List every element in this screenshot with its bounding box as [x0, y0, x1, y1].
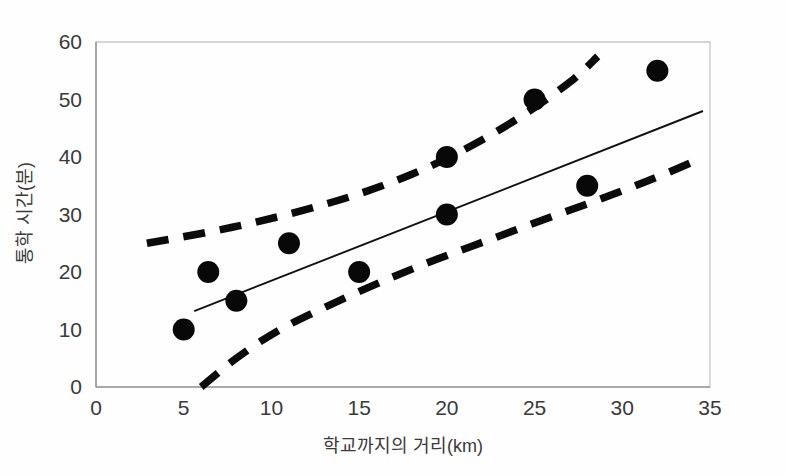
data-point: [576, 175, 598, 197]
data-point: [436, 146, 458, 168]
y-tick-label: 0: [70, 375, 82, 398]
x-tick-label: 5: [178, 396, 190, 419]
data-point: [348, 261, 370, 283]
x-tick-label: 20: [435, 396, 458, 419]
data-point: [278, 232, 300, 254]
x-tick-label: 0: [90, 396, 102, 419]
lower-confidence-band: [201, 160, 697, 387]
y-tick-label: 40: [59, 145, 82, 168]
y-axis-title: 통학 시간(분): [15, 162, 35, 264]
upper-confidence-band: [147, 56, 598, 243]
x-tick-label: 35: [698, 396, 721, 419]
scatter-plot-canvas: 05101520253035 0102030405060 학교까지의 거리(km…: [0, 0, 786, 475]
x-tick-label: 10: [260, 396, 283, 419]
x-axis-title: 학교까지의 거리(km): [323, 436, 483, 456]
data-point: [436, 204, 458, 226]
y-tick-label: 30: [59, 203, 82, 226]
scatter-points-group: [173, 60, 669, 341]
y-tick-label: 10: [59, 318, 82, 341]
chart-figure: 05101520253035 0102030405060 학교까지의 거리(km…: [0, 0, 786, 475]
x-axis-tick-labels: 05101520253035: [90, 396, 722, 419]
x-tick-label: 25: [523, 396, 546, 419]
x-tick-label: 30: [611, 396, 634, 419]
data-point: [173, 319, 195, 341]
data-point: [524, 89, 546, 111]
y-axis-tick-labels: 0102030405060: [59, 30, 82, 398]
y-tick-label: 60: [59, 30, 82, 53]
data-point: [225, 290, 247, 312]
data-point: [197, 261, 219, 283]
x-tick-label: 15: [347, 396, 370, 419]
y-tick-label: 50: [59, 88, 82, 111]
y-tick-label: 20: [59, 260, 82, 283]
data-point: [646, 60, 668, 82]
